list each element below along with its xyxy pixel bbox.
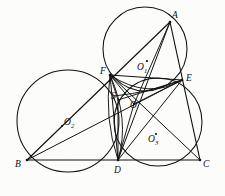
point-label-B: B bbox=[15, 160, 21, 170]
center-label-O2-letter: O bbox=[64, 117, 71, 127]
vertex-dot-B bbox=[26, 159, 29, 162]
vertex-dot-A bbox=[169, 21, 172, 24]
vertex-dot-F bbox=[109, 74, 112, 77]
center-label-O2: O2 bbox=[64, 118, 74, 129]
side-CA bbox=[170, 22, 200, 160]
point-label-S: S bbox=[111, 92, 116, 102]
point-label-C: C bbox=[203, 160, 209, 170]
center-label-O1-letter: O bbox=[137, 62, 144, 72]
center-dot-O1 bbox=[146, 60, 148, 62]
center-label-O3-sub: 3 bbox=[155, 139, 158, 146]
center-label-O3: O3 bbox=[148, 135, 158, 146]
point-label-D: D bbox=[114, 166, 121, 176]
point-label-E: E bbox=[186, 74, 192, 84]
vertex-dot-E bbox=[181, 79, 184, 82]
center-label-O1-sub: 1 bbox=[144, 67, 147, 74]
center-label-O3-letter: O bbox=[148, 134, 155, 144]
center-dot-O2 bbox=[61, 125, 63, 127]
center-label-O2-sub: 2 bbox=[71, 122, 74, 129]
point-label-F: F bbox=[100, 67, 106, 77]
vertex-dot-D bbox=[117, 159, 120, 162]
center-label-O1: O1 bbox=[137, 63, 147, 74]
geometry-figure: A B C D E F S O O1 O2 O3 bbox=[0, 0, 225, 196]
cevian-CF bbox=[110, 75, 200, 160]
point-label-O: O bbox=[130, 101, 137, 111]
point-label-A: A bbox=[172, 11, 178, 21]
vertex-dot-C bbox=[199, 159, 202, 162]
